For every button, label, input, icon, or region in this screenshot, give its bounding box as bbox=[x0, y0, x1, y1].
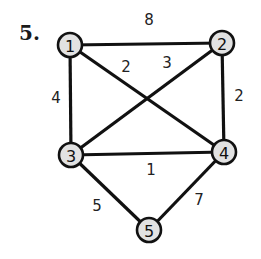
node-label: 3 bbox=[66, 147, 76, 166]
node-5: 5 bbox=[137, 218, 161, 242]
edge-weight-2-4: 2 bbox=[234, 87, 244, 105]
edge-2-4 bbox=[222, 43, 224, 152]
edge-weight-4-5: 7 bbox=[194, 191, 204, 209]
nodes: 12345 bbox=[58, 31, 236, 242]
node-label: 2 bbox=[217, 35, 227, 54]
weighted-graph-diagram: 5. 84232157 12345 bbox=[0, 0, 261, 259]
problem-number: 5. bbox=[19, 21, 40, 45]
node-label: 5 bbox=[144, 222, 154, 241]
edge-weight-3-5: 5 bbox=[92, 197, 102, 215]
node-1: 1 bbox=[58, 33, 82, 57]
edge-1-3 bbox=[70, 45, 71, 155]
edge-weight-2-3: 3 bbox=[162, 54, 172, 72]
edge-3-5 bbox=[71, 155, 149, 230]
node-3: 3 bbox=[59, 143, 83, 167]
edge-weight-1-3: 4 bbox=[51, 89, 61, 107]
edge-weight-1-2: 8 bbox=[144, 11, 154, 29]
edge-3-4 bbox=[71, 152, 224, 155]
node-4: 4 bbox=[212, 140, 236, 164]
node-2: 2 bbox=[210, 31, 234, 55]
edge-weight-1-4: 2 bbox=[121, 58, 131, 76]
edge-weight-3-4: 1 bbox=[146, 161, 156, 179]
node-label: 4 bbox=[219, 144, 229, 163]
edge-1-2 bbox=[70, 43, 222, 45]
edge-4-5 bbox=[149, 152, 224, 230]
node-label: 1 bbox=[65, 37, 75, 56]
